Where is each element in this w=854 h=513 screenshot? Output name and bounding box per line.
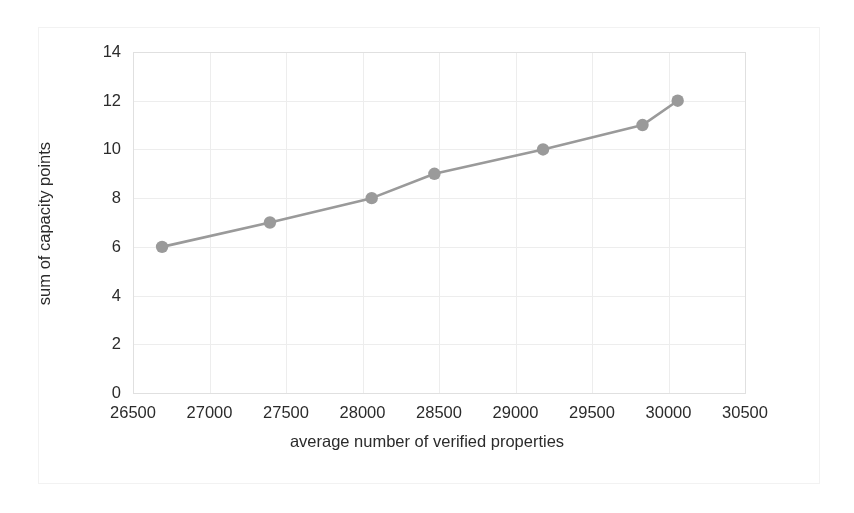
y-tick-label: 6 [81, 237, 121, 256]
x-tick-label: 27500 [246, 403, 326, 422]
y-tick-label: 12 [81, 91, 121, 110]
y-tick-label: 8 [81, 188, 121, 207]
x-tick-label: 30500 [705, 403, 785, 422]
y-tick-label: 10 [81, 139, 121, 158]
y-tick-label: 14 [81, 42, 121, 61]
x-tick-label: 28500 [399, 403, 479, 422]
x-tick-label: 28000 [323, 403, 403, 422]
y-axis-title-container: sum of capacity points [0, 0, 90, 446]
x-tick-label: 30000 [629, 403, 709, 422]
x-axis-title: average number of verified properties [0, 432, 854, 451]
y-tick-label: 0 [81, 383, 121, 402]
x-tick-label: 27000 [170, 403, 250, 422]
x-tick-label: 29500 [552, 403, 632, 422]
x-tick-label: 26500 [93, 403, 173, 422]
x-tick-label: 29000 [476, 403, 556, 422]
y-tick-label: 4 [81, 286, 121, 305]
y-axis-title: sum of capacity points [36, 141, 55, 304]
y-tick-label: 2 [81, 334, 121, 353]
